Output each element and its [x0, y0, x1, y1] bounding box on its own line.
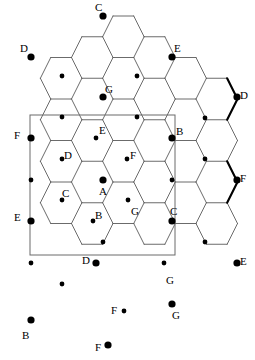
- lattice-edge: [40, 99, 50, 120]
- lattice-edge: [227, 224, 237, 245]
- lattice-vertex-dot[interactable]: [135, 115, 140, 120]
- lattice-vertex-dot[interactable]: [60, 115, 65, 120]
- lattice-edge: [134, 182, 144, 203]
- lattice-edge: [40, 203, 50, 224]
- lattice-vertex-dot[interactable]: [29, 178, 34, 183]
- lattice-edge: [103, 99, 113, 120]
- labelled-vertex-dot[interactable]: [27, 53, 34, 60]
- lattice-edge: [196, 161, 206, 182]
- labelled-vertex-dot[interactable]: [168, 217, 175, 224]
- lattice-edge: [134, 37, 144, 58]
- lattice-edge: [196, 182, 206, 203]
- vertex-label-f: F: [111, 305, 117, 316]
- lattice-vertex-dot[interactable]: [60, 282, 65, 287]
- lattice-vertex-dot[interactable]: [162, 261, 167, 266]
- vertex-label-b: B: [22, 330, 29, 341]
- lattice-vertex-dot[interactable]: [135, 74, 140, 79]
- lattice-edge: [134, 161, 144, 182]
- lattice-vertex-dot[interactable]: [125, 157, 130, 162]
- lattice-edge: [196, 203, 206, 224]
- labelled-vertex-dot[interactable]: [168, 53, 175, 60]
- vertex-label-e: E: [174, 43, 181, 54]
- vertex-label-d: D: [82, 255, 90, 266]
- lattice-edge: [72, 99, 82, 120]
- lattice-edge: [134, 120, 144, 141]
- vertex-label-b: B: [95, 210, 102, 221]
- vertex-label-d: D: [64, 150, 72, 161]
- lattice-vertex-dot[interactable]: [94, 136, 99, 141]
- lattice-edge: [72, 203, 82, 224]
- lattice-edge: [196, 120, 206, 141]
- lattice-edge: [40, 141, 50, 162]
- lattice-vertex-dot[interactable]: [29, 261, 34, 266]
- lattice-edge: [72, 58, 82, 79]
- lattice-edge: [227, 99, 237, 120]
- lattice-edge: [103, 58, 113, 79]
- vertex-label-g: G: [131, 206, 139, 217]
- lattice-edge: [196, 78, 206, 99]
- lattice-edge: [165, 224, 175, 245]
- lattice-drawing: [0, 0, 255, 360]
- lattice-vertex-dot[interactable]: [101, 240, 106, 245]
- hexagonal-lattice-figure: CDEGDFEBDFFCAEBGCDGEBFGF: [0, 0, 255, 360]
- vertex-label-g: G: [172, 310, 180, 321]
- lattice-vertex-dot[interactable]: [170, 178, 175, 183]
- lattice-vertex-dot[interactable]: [203, 157, 208, 162]
- vertex-label-d: D: [240, 90, 248, 101]
- lattice-edge: [103, 37, 113, 58]
- labelled-vertex-dot[interactable]: [27, 217, 34, 224]
- vertex-label-f: F: [95, 342, 101, 353]
- lattice-edge: [40, 58, 50, 79]
- lattice-edge: [165, 78, 175, 99]
- vertex-label-c: C: [170, 206, 177, 217]
- lattice-vertex-dot[interactable]: [126, 198, 131, 203]
- lattice-vertex-dot[interactable]: [60, 74, 65, 79]
- labelled-vertex-dot[interactable]: [92, 259, 99, 266]
- vertex-label-c: C: [62, 188, 69, 199]
- lattice-edge: [40, 120, 50, 141]
- vertex-label-d: D: [20, 43, 28, 54]
- vertex-label-e: E: [240, 256, 247, 267]
- labelled-vertex-dot[interactable]: [27, 134, 34, 141]
- lattice-edge: [196, 58, 206, 79]
- labelled-vertex-dot[interactable]: [168, 134, 175, 141]
- lattice-edge: [40, 161, 50, 182]
- lattice-edge: [134, 78, 144, 99]
- labelled-vertex-dot[interactable]: [104, 341, 111, 348]
- lattice-edge: [134, 16, 144, 37]
- lattice-edge: [40, 182, 50, 203]
- labelled-vertex-dot[interactable]: [99, 12, 106, 19]
- lattice-edge: [72, 78, 82, 99]
- lattice-edge: [72, 161, 82, 182]
- lattice-edge: [165, 182, 175, 203]
- lattice-edge: [165, 58, 175, 79]
- lattice-edge: [165, 141, 175, 162]
- lattice-edge: [103, 141, 113, 162]
- lattice-edge: [103, 203, 113, 224]
- vertex-label-g: G: [166, 275, 174, 286]
- lattice-vertex-dot[interactable]: [122, 309, 127, 314]
- lattice-vertex-dot[interactable]: [203, 116, 208, 121]
- lattice-edge: [72, 141, 82, 162]
- lattice-vertex-dot[interactable]: [203, 240, 208, 245]
- lattice-edge: [72, 224, 82, 245]
- vertex-label-c: C: [95, 2, 102, 13]
- lattice-vertex-dots-small: [29, 74, 208, 314]
- vertex-label-f: F: [14, 130, 20, 141]
- lattice-edge: [227, 141, 237, 162]
- vertex-label-b: B: [176, 126, 183, 137]
- vertex-label-a: A: [99, 186, 107, 197]
- lattice-edge: [40, 78, 50, 99]
- labelled-vertex-dot[interactable]: [27, 316, 34, 323]
- lattice-edge: [227, 120, 237, 141]
- labelled-vertex-dot[interactable]: [99, 176, 106, 183]
- vertex-label-e: E: [14, 212, 21, 223]
- labelled-vertex-dot[interactable]: [168, 300, 175, 307]
- lattice-edge: [72, 182, 82, 203]
- lattice-edge: [72, 120, 82, 141]
- lattice-edge: [165, 99, 175, 120]
- vertex-label-e: E: [99, 125, 106, 136]
- lattice-edge: [227, 203, 237, 224]
- vertex-label-f: F: [240, 173, 246, 184]
- lattice-edge: [227, 182, 237, 203]
